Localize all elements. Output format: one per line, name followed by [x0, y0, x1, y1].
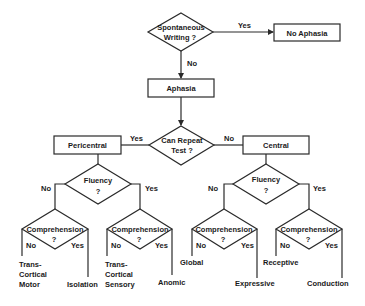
box-label: Central — [263, 141, 289, 150]
outcome-label: Cortical — [19, 270, 47, 279]
decision-can-repeat: Can Repeat Test ? — [149, 126, 214, 165]
box-aphasia: Aphasia — [148, 79, 214, 97]
decision-label: ? — [264, 186, 269, 195]
edge-label-no: No — [280, 241, 290, 250]
box-label: Aphasia — [166, 84, 196, 93]
decision-label: ? — [96, 187, 101, 196]
decision-comprehension-4: Comprehension ? No Yes — [276, 209, 342, 278]
decision-fluency-left: Fluency ? — [65, 164, 131, 204]
edge-fluency-right-no: No — [208, 184, 233, 209]
edge-label-yes: Yes — [71, 241, 84, 250]
outcome-transcortical-motor: Trans- Cortical Motor — [19, 260, 47, 289]
outcome-label: Motor — [19, 280, 40, 289]
edge-fluency-right-yes: Yes — [299, 184, 326, 209]
edge-label-yes: Yes — [241, 241, 254, 250]
edge-label-no: No — [224, 134, 234, 143]
decision-label: Comprehension — [195, 225, 253, 234]
edge-label-yes: Yes — [155, 241, 168, 250]
decision-fluency-right: Fluency ? — [233, 164, 299, 204]
edge-label-yes: Yes — [145, 184, 158, 193]
edge-label-no: No — [41, 184, 51, 193]
decision-spontaneous-writing: Spontaneous Writing ? — [148, 13, 213, 51]
decision-label: ? — [137, 235, 142, 244]
decision-label: ? — [221, 235, 226, 244]
outcome-label: Cortical — [105, 270, 133, 279]
decision-label: Comprehension — [111, 225, 169, 234]
decision-label: Comprehension — [280, 225, 338, 234]
outcome-isolation: Isolation — [67, 280, 98, 289]
edge-fluency-left-no: No — [41, 184, 65, 209]
outcome-label: Trans- — [19, 260, 42, 269]
edge-label-yes: Yes — [238, 21, 251, 30]
outcome-label: Trans- — [105, 260, 128, 269]
edge-label-no: No — [26, 241, 36, 250]
decision-label: Writing ? — [164, 33, 197, 42]
edge-repeat-yes: Yes — [121, 134, 149, 145]
outcome-expressive: Expressive — [235, 279, 275, 288]
outcome-transcortical-sensory: Trans- Cortical Sensory — [105, 260, 135, 289]
decision-label: ? — [306, 235, 311, 244]
box-label: No Aphasia — [287, 29, 329, 38]
edge-label-yes: Yes — [130, 134, 143, 143]
outcome-global: Global — [180, 258, 203, 267]
edge-label-no: No — [196, 241, 206, 250]
edge-label-yes: Yes — [313, 184, 326, 193]
outcome-conduction: Conduction — [307, 279, 349, 288]
box-pericentral: Pericentral — [54, 136, 121, 154]
decision-label: Comprehension — [26, 225, 84, 234]
edge-label-yes: Yes — [325, 241, 338, 250]
box-central: Central — [243, 136, 309, 154]
decision-label: Fluency — [84, 176, 113, 185]
outcome-label: Sensory — [105, 280, 135, 289]
outcome-anomic: Anomic — [158, 278, 186, 287]
decision-label: ? — [52, 235, 57, 244]
decision-label: Test ? — [171, 146, 193, 155]
box-label: Pericentral — [68, 141, 107, 150]
edge-fluency-left-yes: Yes — [131, 184, 158, 209]
decision-label: Fluency — [252, 175, 281, 184]
decision-label: Spontaneous — [157, 23, 205, 32]
edge-label-no: No — [187, 59, 197, 68]
edge-label-no: No — [208, 184, 218, 193]
edge-spontaneous-yes: Yes — [213, 21, 273, 32]
edge-spontaneous-no: No — [181, 51, 197, 78]
outcome-receptive: Receptive — [263, 258, 298, 267]
decision-label: Can Repeat — [161, 136, 203, 145]
aphasia-flowchart: Spontaneous Writing ? Yes No Aphasia No … — [0, 0, 365, 306]
decision-comprehension-3: Comprehension ? No Yes — [192, 209, 257, 278]
edge-repeat-no: No — [214, 134, 243, 145]
box-no-aphasia: No Aphasia — [274, 24, 340, 41]
edge-label-no: No — [111, 241, 121, 250]
